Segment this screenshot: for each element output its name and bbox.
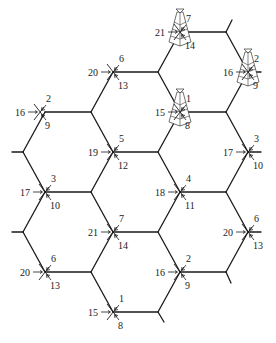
cell-site-site-b: 21714 [155, 9, 195, 51]
channel-label-left: 21 [155, 27, 165, 38]
arrow-up-left-icon [42, 115, 47, 121]
channel-label-lower: 13 [253, 240, 263, 251]
channel-label-left: 17 [20, 187, 30, 198]
channel-label-upper: 6 [51, 253, 56, 264]
channel-label-upper: 4 [186, 173, 191, 184]
channel-label-upper: 3 [254, 133, 259, 144]
channel-label-left: 19 [88, 147, 98, 158]
cell-edge [226, 232, 248, 272]
arrow-up-left-icon [250, 155, 255, 161]
channel-label-lower: 9 [185, 280, 190, 291]
arrow-down-left-icon [47, 185, 52, 191]
channel-label-left: 15 [155, 107, 165, 118]
arrow-up-left-icon [47, 275, 52, 281]
channel-label-left: 16 [15, 107, 25, 118]
channel-label-lower: 8 [118, 320, 123, 331]
channel-label-left: 20 [88, 67, 98, 78]
channel-label-lower: 11 [185, 200, 195, 211]
channel-label-upper: 2 [254, 53, 259, 64]
arrow-right-icon [101, 151, 111, 154]
arrow-down-left-icon [182, 265, 187, 271]
channel-label-upper: 2 [186, 253, 191, 264]
arrow-right-icon [28, 111, 38, 114]
arrow-up-left-icon [115, 315, 120, 321]
arrow-up-left-icon [182, 195, 187, 201]
arrow-down-left-icon [182, 185, 187, 191]
cell-edge [158, 312, 164, 322]
cell-edge [158, 192, 180, 232]
cell-boundaries [12, 20, 261, 322]
arrow-right-icon [236, 151, 246, 154]
channel-label-left: 16 [155, 267, 165, 278]
channel-label-lower: 8 [185, 120, 190, 131]
channel-label-lower: 9 [253, 80, 258, 91]
channel-label-left: 15 [88, 307, 98, 318]
arrow-right-icon [236, 231, 246, 234]
channel-label-upper: 7 [119, 213, 124, 224]
cell-edge [158, 272, 180, 312]
cell-edge [23, 192, 45, 232]
arrow-up-left-icon [250, 235, 255, 241]
arrow-right-icon [168, 191, 178, 194]
channel-label-lower: 14 [118, 240, 128, 251]
arrow-down-left-icon [115, 305, 120, 311]
channel-label-upper: 1 [119, 293, 124, 304]
arrow-down-left-icon [42, 105, 47, 111]
arrow-right-icon [33, 271, 43, 274]
arrow-down-left-icon [250, 225, 255, 231]
channel-label-upper: 7 [186, 13, 191, 24]
channel-label-lower: 13 [118, 80, 128, 91]
cell-edge [91, 72, 113, 112]
cell-edge [226, 272, 231, 283]
channel-label-lower: 14 [185, 40, 195, 51]
cell-edge [91, 152, 113, 192]
channel-label-lower: 12 [118, 160, 128, 171]
channel-label-left: 20 [223, 227, 233, 238]
arrow-right-icon [101, 71, 111, 74]
channel-label-upper: 5 [119, 133, 124, 144]
arrow-up-left-icon [115, 235, 120, 241]
cell-edge [91, 232, 113, 272]
arrow-down-left-icon [115, 65, 120, 71]
cell-sites: 2061321714162916291518195121731017310184… [15, 9, 263, 331]
channel-label-upper: 6 [119, 53, 124, 64]
arrow-down-left-icon [250, 145, 255, 151]
channel-label-lower: 9 [45, 120, 50, 131]
channel-label-upper: 6 [254, 213, 259, 224]
channel-label-lower: 10 [253, 160, 263, 171]
channel-label-left: 18 [155, 187, 165, 198]
arrow-right-icon [168, 271, 178, 274]
channel-label-left: 21 [88, 227, 98, 238]
channel-label-left: 16 [223, 67, 233, 78]
hex-cell-diagram: 2061321714162916291518195121731017310184… [0, 0, 276, 343]
channel-label-upper: 1 [186, 93, 191, 104]
channel-label-upper: 2 [46, 93, 51, 104]
arrow-down-left-icon [115, 225, 120, 231]
arrow-up-left-icon [182, 275, 187, 281]
arrow-up-left-icon [115, 75, 120, 81]
arrow-right-icon [33, 191, 43, 194]
arrow-up-left-icon [47, 195, 52, 201]
channel-label-lower: 13 [50, 280, 60, 291]
arrow-down-left-icon [115, 145, 120, 151]
channel-label-left: 20 [20, 267, 30, 278]
arrow-up-left-icon [115, 155, 120, 161]
channel-label-lower: 10 [50, 200, 60, 211]
cell-edge [226, 20, 232, 32]
channel-label-upper: 3 [51, 173, 56, 184]
arrow-down-left-icon [47, 265, 52, 271]
arrow-right-icon [101, 311, 111, 314]
hex-grid-canvas: 2061321714162916291518195121731017310184… [0, 0, 276, 343]
channel-label-left: 17 [223, 147, 233, 158]
arrow-right-icon [101, 231, 111, 234]
cell-edge [226, 152, 248, 192]
